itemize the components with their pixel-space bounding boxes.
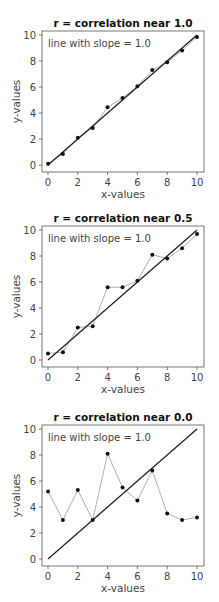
slope-line-annotation: line with slope = 1.0: [48, 432, 151, 443]
y-tick-label: 4: [30, 502, 36, 513]
y-tick-label: 0: [30, 160, 36, 171]
slope-line-annotation: line with slope = 1.0: [48, 233, 151, 244]
chart-r-0: r = correlation near 0.002468100246810x-…: [0, 412, 219, 602]
y-tick-label: 2: [30, 329, 36, 340]
chart-panel-r-1: r = correlation near 1.002468100246810x-…: [0, 18, 219, 200]
y-tick-label: 6: [30, 82, 36, 93]
data-point: [135, 499, 139, 503]
data-point: [165, 257, 169, 261]
data-point: [106, 452, 110, 456]
slope-line-annotation: line with slope = 1.0: [48, 38, 151, 49]
y-tick-label: 10: [23, 30, 36, 41]
x-tick-label: 10: [191, 177, 204, 188]
data-point: [180, 246, 184, 250]
y-tick-label: 6: [30, 277, 36, 288]
x-tick-label: 0: [45, 372, 51, 383]
data-point: [91, 518, 95, 522]
x-tick-label: 10: [191, 571, 204, 582]
data-point: [76, 488, 80, 492]
x-tick-label: 10: [191, 372, 204, 383]
y-tick-label: 10: [23, 225, 36, 236]
x-tick-label: 6: [134, 571, 140, 582]
data-point: [180, 518, 184, 522]
y-tick-label: 8: [30, 56, 36, 67]
data-point: [195, 232, 199, 236]
slope-line: [48, 429, 197, 559]
x-tick-label: 8: [164, 372, 170, 383]
data-point: [135, 279, 139, 283]
y-axis-label: y-values: [10, 80, 22, 124]
x-tick-label: 0: [45, 177, 51, 188]
data-point: [46, 162, 50, 166]
x-tick-label: 8: [164, 177, 170, 188]
x-tick-label: 0: [45, 571, 51, 582]
chart-panel-r-0: r = correlation near 0.002468100246810x-…: [0, 412, 219, 602]
y-tick-label: 2: [30, 528, 36, 539]
data-point: [165, 60, 169, 64]
data-point: [91, 324, 95, 328]
data-point: [150, 253, 154, 257]
data-point: [121, 96, 125, 100]
chart-r-05: r = correlation near 0.502468100246810x-…: [0, 213, 219, 395]
data-point: [91, 126, 95, 130]
data-point: [76, 326, 80, 330]
x-tick-label: 4: [104, 571, 110, 582]
x-tick-label: 6: [134, 372, 140, 383]
data-point: [106, 285, 110, 289]
data-point: [61, 350, 65, 354]
x-tick-label: 8: [164, 571, 170, 582]
data-point: [135, 84, 139, 88]
data-point: [180, 49, 184, 53]
y-axis-label: y-values: [10, 474, 22, 518]
x-tick-label: 2: [75, 571, 81, 582]
x-axis-label: x-values: [101, 383, 145, 395]
x-tick-label: 4: [104, 177, 110, 188]
x-tick-label: 6: [134, 177, 140, 188]
data-point: [46, 489, 50, 493]
data-connecting-line: [48, 234, 197, 354]
chart-title: r = correlation near 1.0: [54, 18, 193, 29]
data-point: [121, 285, 125, 289]
y-tick-label: 4: [30, 108, 36, 119]
data-point: [106, 105, 110, 109]
data-point: [61, 518, 65, 522]
data-point: [150, 469, 154, 473]
data-point: [61, 152, 65, 156]
data-point: [76, 136, 80, 140]
data-point: [121, 486, 125, 490]
x-axis-label: x-values: [101, 188, 145, 200]
y-tick-label: 4: [30, 303, 36, 314]
y-axis-label: y-values: [10, 275, 22, 319]
chart-r-1: r = correlation near 1.002468100246810x-…: [0, 18, 219, 200]
x-tick-label: 4: [104, 372, 110, 383]
chart-title: r = correlation near 0.0: [54, 412, 193, 423]
data-point: [165, 512, 169, 516]
y-tick-label: 0: [30, 554, 36, 565]
x-axis-label: x-values: [101, 582, 145, 594]
y-tick-label: 6: [30, 476, 36, 487]
y-tick-label: 10: [23, 424, 36, 435]
data-point: [195, 515, 199, 519]
data-point: [150, 68, 154, 72]
y-tick-label: 0: [30, 355, 36, 366]
y-tick-label: 2: [30, 134, 36, 145]
slope-line: [48, 230, 197, 360]
y-tick-label: 8: [30, 450, 36, 461]
chart-panel-r-05: r = correlation near 0.502468100246810x-…: [0, 213, 219, 395]
data-point: [46, 352, 50, 356]
x-tick-label: 2: [75, 372, 81, 383]
y-tick-label: 8: [30, 251, 36, 262]
data-point: [195, 35, 199, 39]
chart-title: r = correlation near 0.5: [54, 213, 193, 224]
x-tick-label: 2: [75, 177, 81, 188]
plot-frame: [42, 425, 204, 566]
